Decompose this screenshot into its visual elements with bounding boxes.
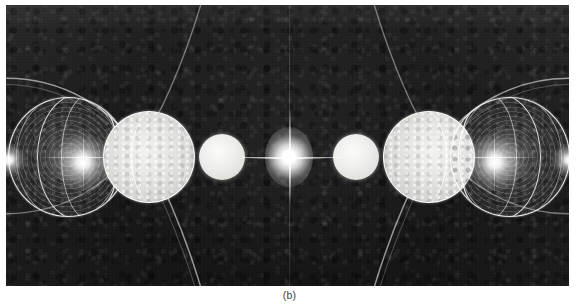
globe-left-hotspot-spike-v bbox=[83, 129, 84, 193]
globe-right-hotspot bbox=[466, 133, 524, 191]
globe-right-hotspot-spike-v bbox=[494, 129, 495, 193]
plate-top-band bbox=[6, 5, 569, 31]
figure-caption: (b) bbox=[0, 289, 579, 301]
photographic-plate bbox=[6, 5, 569, 286]
milky-sphere-left bbox=[103, 111, 195, 203]
milky-seam-right bbox=[391, 111, 447, 203]
central-flare-spike-v bbox=[289, 109, 291, 207]
pearl-sphere-left bbox=[199, 134, 245, 180]
milky-seam-left bbox=[131, 111, 187, 203]
figure-panel: (b) bbox=[0, 0, 579, 306]
